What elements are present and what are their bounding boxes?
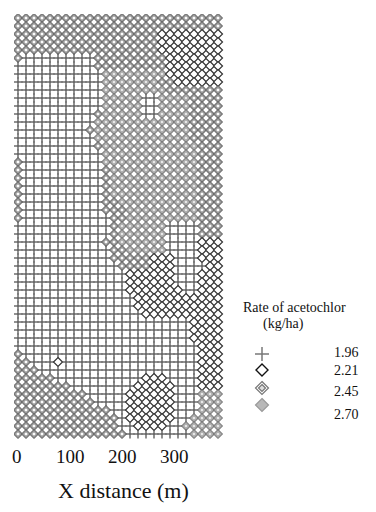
x-tick: 300 bbox=[160, 446, 189, 468]
double-diamond-icon bbox=[254, 380, 270, 396]
x-tick: 100 bbox=[56, 446, 85, 468]
rate-map-grid bbox=[14, 14, 226, 440]
plus-icon bbox=[254, 346, 270, 362]
open-diamond-icon bbox=[254, 362, 270, 378]
x-axis-label: X distance (m) bbox=[58, 478, 189, 504]
x-tick: 0 bbox=[12, 446, 22, 468]
legend-value: 1.96 bbox=[334, 345, 359, 361]
legend-title: Rate of acetochlor bbox=[243, 300, 346, 315]
x-tick: 200 bbox=[108, 446, 137, 468]
legend-value: 2.21 bbox=[334, 363, 359, 379]
filled-diamond-icon bbox=[254, 397, 270, 413]
legend-value: 2.70 bbox=[334, 407, 359, 423]
legend-subtitle: (kg/ha) bbox=[263, 316, 303, 332]
legend-value: 2.45 bbox=[334, 384, 359, 400]
